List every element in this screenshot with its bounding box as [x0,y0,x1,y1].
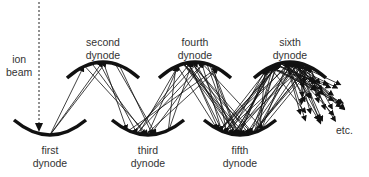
dynode-diagram: ion beam firstdynode seconddynode thirdd… [0,0,369,177]
sixth-dynode-label: sixthdynode [265,36,315,62]
ion-beam-label: ion beam [6,53,32,79]
etc-label: etc. [336,124,353,137]
fifth-dynode-label: fifthdynode [215,144,265,170]
electron-trajectories [50,62,345,135]
third-dynode-label: thirddynode [123,144,173,170]
second-dynode-label: seconddynode [78,36,128,62]
first-dynode-arc [14,120,86,135]
ion-beam-arrowhead-icon [35,123,43,132]
first-dynode-label: firstdynode [25,144,75,170]
fourth-dynode-label: fourthdynode [170,36,220,62]
